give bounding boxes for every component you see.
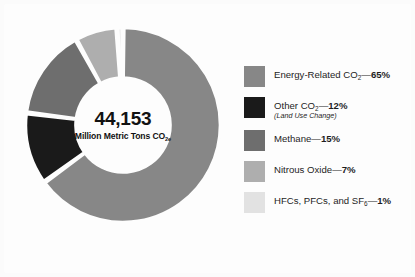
donut-slices xyxy=(26,28,220,222)
legend-item-methane[interactable]: Methane—15% xyxy=(244,130,415,152)
legend-swatch-nitrous-oxide xyxy=(244,161,265,182)
legend-label-methane: Methane—15% xyxy=(274,133,340,144)
legend-percent-energy-related-co2: 65% xyxy=(371,69,390,80)
legend-text-wrap: Nitrous Oxide—7% xyxy=(274,161,356,175)
legend-percent-other-co2: 12% xyxy=(328,100,347,111)
legend-percent-hfcs-pfcs-sf6: 1% xyxy=(377,195,391,206)
legend-label-text: Energy-Related CO xyxy=(274,69,358,80)
legend-separator: — xyxy=(319,100,329,111)
legend-label-subscript: 2 xyxy=(358,74,362,81)
legend-label-text: Methane xyxy=(274,133,311,144)
legend-separator: — xyxy=(332,164,342,175)
legend-swatch-hfcs-pfcs-sf6 xyxy=(244,192,265,213)
legend-percent-methane: 15% xyxy=(321,133,340,144)
legend-label-other-co2: Other CO2—12% xyxy=(274,100,347,111)
chart-canvas: 44,153 Million Metric Tons CO2e Energy-R… xyxy=(4,4,411,273)
legend-note-other-co2: (Land Use Change) xyxy=(274,112,347,121)
legend-item-nitrous-oxide[interactable]: Nitrous Oxide—7% xyxy=(244,161,415,183)
legend-label-text: Other CO xyxy=(274,100,315,111)
legend-text-wrap: Energy-Related CO2—65% xyxy=(274,66,390,80)
legend-label-text: Nitrous Oxide xyxy=(274,164,332,175)
legend-percent-nitrous-oxide: 7% xyxy=(342,164,356,175)
legend-item-hfcs-pfcs-sf6[interactable]: HFCs, PFCs, and SF6—1% xyxy=(244,192,415,214)
legend-separator: — xyxy=(311,133,321,144)
legend-label-text: HFCs, PFCs, and SF xyxy=(274,195,364,206)
legend-text-wrap: Methane—15% xyxy=(274,130,340,144)
legend-label-nitrous-oxide: Nitrous Oxide—7% xyxy=(274,164,356,175)
chart-page: 44,153 Million Metric Tons CO2e Energy-R… xyxy=(0,0,415,277)
legend-swatch-other-co2 xyxy=(244,97,265,118)
donut-chart: 44,153 Million Metric Tons CO2e xyxy=(22,24,224,226)
legend-label-subscript: 2 xyxy=(315,105,319,112)
donut-svg xyxy=(22,24,224,226)
legend-swatch-energy-related-co2 xyxy=(244,66,265,87)
legend-label-subscript: 6 xyxy=(364,200,368,207)
legend-item-energy-related-co2[interactable]: Energy-Related CO2—65% xyxy=(244,66,415,88)
legend-label-hfcs-pfcs-sf6: HFCs, PFCs, and SF6—1% xyxy=(274,195,391,206)
legend-text-wrap: Other CO2—12%(Land Use Change) xyxy=(274,97,347,121)
legend-label-energy-related-co2: Energy-Related CO2—65% xyxy=(274,69,390,80)
legend-separator: — xyxy=(361,69,371,80)
legend-separator: — xyxy=(368,195,378,206)
legend-item-other-co2[interactable]: Other CO2—12%(Land Use Change) xyxy=(244,97,415,121)
chart-legend: Energy-Related CO2—65%Other CO2—12%(Land… xyxy=(244,66,415,214)
legend-swatch-methane xyxy=(244,130,265,151)
legend-text-wrap: HFCs, PFCs, and SF6—1% xyxy=(274,192,391,206)
